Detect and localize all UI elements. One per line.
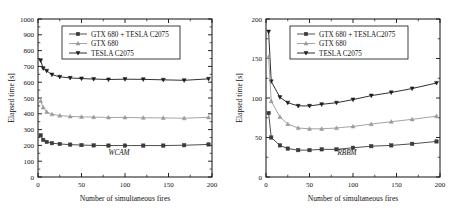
- x-tick-label: 150: [391, 181, 402, 189]
- y-tick-label: 200: [252, 16, 263, 24]
- data-point-marker: [435, 140, 438, 143]
- y-tick-label: 200: [24, 142, 35, 150]
- legend-label: GTX 680: [319, 40, 347, 48]
- x-tick-label: 200: [435, 181, 446, 189]
- y-tick-label: 100: [252, 95, 263, 103]
- x-tick-label: 100: [348, 181, 359, 189]
- y-tick-label: 0: [259, 174, 263, 182]
- data-point-marker: [410, 142, 413, 145]
- x-tick-label: 50: [78, 181, 86, 189]
- data-point-marker: [107, 144, 110, 147]
- data-point-marker: [269, 99, 273, 103]
- data-point-marker: [320, 148, 323, 151]
- y-tick-label: 400: [24, 110, 35, 118]
- y-tick-label: 700: [24, 63, 35, 71]
- series-2: [39, 134, 210, 148]
- data-point-marker: [278, 96, 282, 100]
- data-point-marker: [39, 99, 43, 103]
- data-point-marker: [50, 141, 53, 144]
- x-tick-label: 200: [207, 181, 218, 189]
- y-tick-label: 0: [31, 174, 35, 182]
- data-point-marker: [370, 144, 373, 147]
- data-point-marker: [278, 115, 282, 119]
- chart-panel-rbbm: 050100150200050100150200Number of simult…: [228, 0, 456, 216]
- legend-label: GTX 680 + TESLAC2075: [319, 31, 396, 39]
- y-tick-label: 800: [24, 47, 35, 55]
- y-axis-title: Elapsed time [s]: [7, 73, 16, 122]
- x-axis-title: Number of simultaneous fires: [308, 194, 399, 203]
- data-point-marker: [41, 105, 45, 109]
- figure-container: 0501001502000100200300400500600700800900…: [0, 0, 456, 216]
- x-tick-label: 0: [36, 181, 40, 189]
- data-point-marker: [267, 30, 271, 34]
- x-axis-title: Number of simultaneous fires: [80, 194, 171, 203]
- panel-annotation: RBBM: [336, 149, 357, 157]
- y-tick-label: 900: [24, 31, 35, 39]
- series-line: [41, 60, 209, 80]
- legend-label: GTX 680 + TESLA C2075: [91, 31, 169, 39]
- legend: GTX 680 + TESLA C2075GTX 680TESLA C2075: [62, 26, 180, 59]
- data-point-marker: [390, 144, 393, 147]
- data-point-marker: [123, 144, 126, 147]
- data-point-marker: [351, 146, 354, 149]
- y-axis-title: Elapsed time [s]: [235, 73, 244, 122]
- chart-svg-rbbm: 050100150200050100150200Number of simult…: [228, 0, 456, 216]
- x-tick-label: 0: [264, 181, 268, 189]
- data-point-marker: [58, 142, 61, 145]
- data-point-marker: [278, 144, 281, 147]
- legend-label: TESLA C2075: [91, 50, 134, 58]
- series-line: [269, 57, 437, 129]
- y-tick-label: 50: [255, 134, 263, 142]
- data-point-marker: [270, 136, 273, 139]
- panel-annotation: WCAM: [108, 149, 130, 157]
- data-point-marker: [335, 148, 338, 151]
- data-point-marker: [286, 147, 289, 150]
- data-point-marker: [92, 144, 95, 147]
- y-tick-label: 150: [252, 55, 263, 63]
- legend: GTX 680 + TESLAC2075GTX 680TESLA C2075: [290, 26, 408, 59]
- y-tick-label: 100: [24, 158, 35, 166]
- data-point-marker: [296, 148, 299, 151]
- data-point-marker: [304, 32, 307, 35]
- y-tick-label: 600: [24, 79, 35, 87]
- data-point-marker: [207, 143, 210, 146]
- data-point-marker: [39, 59, 43, 63]
- x-tick-label: 50: [306, 181, 314, 189]
- x-tick-label: 100: [120, 181, 131, 189]
- data-point-marker: [142, 144, 145, 147]
- data-point-marker: [76, 32, 79, 35]
- data-point-marker: [267, 111, 270, 114]
- data-point-marker: [45, 140, 48, 143]
- data-point-marker: [42, 138, 45, 141]
- series-1: [267, 55, 439, 131]
- y-tick-label: 300: [24, 126, 35, 134]
- data-point-marker: [308, 148, 311, 151]
- legend-label: TESLA C2075: [319, 50, 362, 58]
- series-1: [39, 99, 211, 120]
- chart-svg-wcam: 0501001502000100200300400500600700800900…: [0, 0, 228, 216]
- y-tick-label: 1000: [20, 16, 35, 24]
- series-0: [39, 59, 211, 83]
- y-tick-label: 500: [24, 95, 35, 103]
- chart-panel-wcam: 0501001502000100200300400500600700800900…: [0, 0, 228, 216]
- data-point-marker: [80, 143, 83, 146]
- x-tick-label: 150: [163, 181, 174, 189]
- data-point-marker: [162, 144, 165, 147]
- data-point-marker: [39, 134, 42, 137]
- legend-label: GTX 680: [91, 40, 119, 48]
- data-point-marker: [68, 143, 71, 146]
- data-point-marker: [182, 144, 185, 147]
